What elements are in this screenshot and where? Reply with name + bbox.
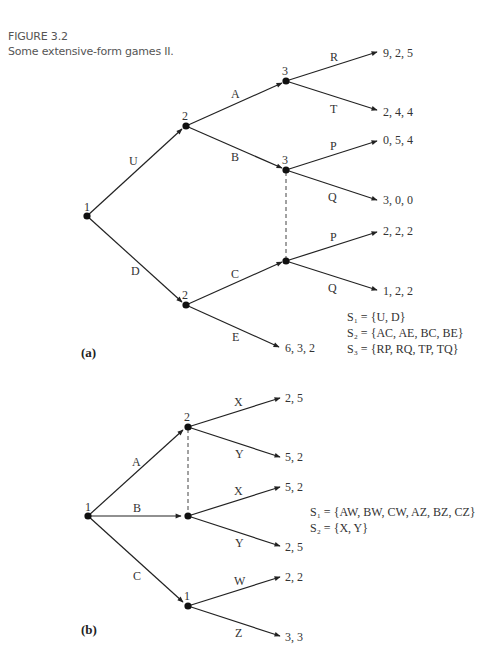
action-label: A bbox=[231, 87, 240, 101]
edge-U bbox=[87, 129, 182, 216]
action-label: T bbox=[330, 102, 338, 116]
edge-Z bbox=[188, 606, 280, 636]
node-p2-mid bbox=[184, 512, 191, 519]
strategy-set-2: S₂ = {AC, AE, BC, BE} bbox=[347, 326, 464, 340]
action-label: C bbox=[133, 569, 141, 583]
node-p3-lower bbox=[282, 257, 289, 264]
edge-Y-upper bbox=[188, 427, 280, 457]
payoff-label: 6, 3, 2 bbox=[285, 341, 315, 355]
payoff-label: 1, 2, 2 bbox=[383, 284, 413, 298]
node-p2-upper bbox=[182, 122, 189, 129]
edge-D bbox=[87, 216, 182, 302]
payoff-label: 3, 3 bbox=[285, 630, 303, 644]
strategy-set-1: S₁ = {AW, BW, CW, AZ, BZ, CZ} bbox=[310, 505, 476, 519]
payoff-label: 0, 5, 4 bbox=[383, 133, 413, 147]
node-label: 1 bbox=[84, 200, 90, 214]
payoff-label: 2, 5 bbox=[285, 391, 303, 405]
part-label-b: (b) bbox=[81, 622, 97, 637]
action-label: B bbox=[133, 501, 141, 515]
action-label: E bbox=[232, 330, 239, 344]
node-label: 2 bbox=[182, 288, 188, 302]
strategy-set-3: S₃ = {RP, RQ, TP, TQ} bbox=[347, 342, 458, 356]
action-label: Q bbox=[328, 190, 337, 204]
action-label: X bbox=[234, 395, 243, 409]
node-p1-bottom bbox=[184, 602, 191, 609]
node-label: 3 bbox=[282, 64, 288, 78]
action-label: B bbox=[231, 150, 239, 164]
edge-C bbox=[88, 516, 183, 602]
payoff-label: 2, 4, 4 bbox=[383, 105, 413, 119]
payoff-label: 2, 2 bbox=[285, 570, 303, 584]
node-p3-mid bbox=[282, 166, 289, 173]
action-label: P bbox=[330, 230, 337, 244]
payoff-label: 2, 5 bbox=[285, 540, 303, 554]
payoff-label: 5, 2 bbox=[285, 450, 303, 464]
payoff-label: 5, 2 bbox=[285, 480, 303, 494]
game-tree-diagram: 1 2 3 3 2 U D A B C E R T P Q P Q 9, 2, … bbox=[0, 0, 486, 651]
action-label: A bbox=[132, 455, 141, 469]
strategy-set-2: S₂ = {X, Y} bbox=[310, 521, 368, 535]
game-b: 1 2 1 A B C X Y X Y W Z 2, 5 5, 2 5, 2 2… bbox=[81, 391, 476, 644]
node-label: 3 bbox=[282, 153, 288, 167]
node-label: 2 bbox=[182, 109, 188, 123]
strategy-set-1: S₁ = {U, D} bbox=[347, 310, 405, 324]
part-label-a: (a) bbox=[81, 345, 96, 360]
node-label: 1 bbox=[184, 589, 190, 603]
payoff-label: 9, 2, 5 bbox=[383, 46, 413, 60]
action-label: Y bbox=[235, 536, 244, 550]
node-p2-lower bbox=[182, 301, 189, 308]
edge-Y-lower bbox=[188, 516, 280, 546]
action-label: U bbox=[129, 154, 138, 168]
node-label: 2 bbox=[184, 410, 190, 424]
node-label: 1 bbox=[85, 500, 91, 514]
payoff-label: 3, 0, 0 bbox=[383, 193, 413, 207]
payoff-label: 2, 2, 2 bbox=[383, 224, 413, 238]
node-p2-top bbox=[184, 423, 191, 430]
action-label: P bbox=[330, 139, 337, 153]
action-label: C bbox=[231, 267, 239, 281]
action-label: R bbox=[330, 50, 338, 64]
action-label: X bbox=[234, 484, 243, 498]
game-a: 1 2 3 3 2 U D A B C E R T P Q P Q 9, 2, … bbox=[81, 46, 464, 360]
action-label: Y bbox=[235, 447, 244, 461]
action-label: D bbox=[131, 264, 140, 278]
action-label: Z bbox=[235, 626, 242, 640]
action-label: W bbox=[234, 574, 246, 588]
action-label: Q bbox=[328, 281, 337, 295]
node-p3-top bbox=[282, 77, 289, 84]
